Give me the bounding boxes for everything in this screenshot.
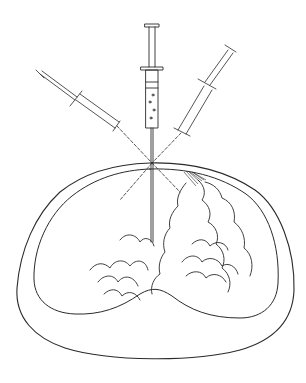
hatched-tissue: [184, 171, 206, 186]
right-syringe: [120, 45, 236, 200]
center-syringe: [141, 24, 163, 242]
bowel-loops: [90, 180, 252, 300]
inner-cavity-outline: [34, 169, 278, 318]
illustration: [0, 0, 306, 383]
outer-body-outline: [17, 163, 294, 359]
